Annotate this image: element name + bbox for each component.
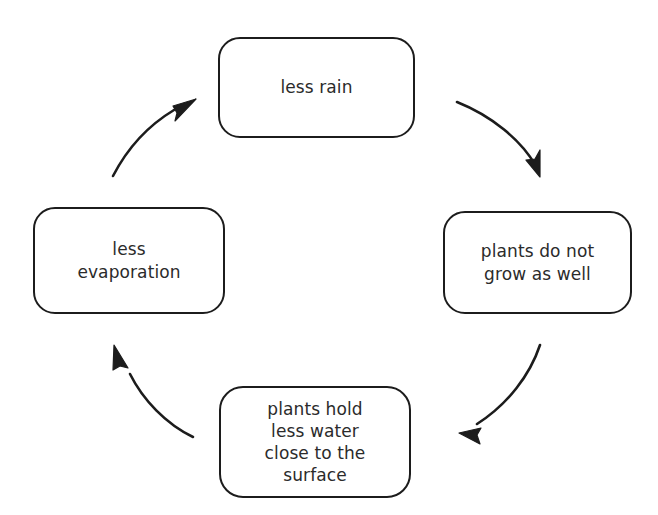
arrow-left-to-top-curve xyxy=(113,110,174,176)
arrow-top-to-right xyxy=(457,102,540,177)
node-less-rain: less rain xyxy=(218,37,415,138)
arrow-left-to-top xyxy=(113,99,196,176)
node-less-evaporation-label: less evaporation xyxy=(71,238,186,282)
arrow-right-to-bottom-head xyxy=(459,428,481,444)
cycle-diagram: less rain plants do not grow as well pla… xyxy=(0,0,658,515)
arrow-bottom-to-left-curve xyxy=(130,374,193,437)
node-plants-do-not-grow-as-well: plants do not grow as well xyxy=(443,211,632,314)
arrow-top-to-right-curve xyxy=(457,102,536,166)
node-less-evaporation: less evaporation xyxy=(33,207,225,314)
node-plants-hold-less-water-close-to-the-surface-label: plants hold less water close to the surf… xyxy=(259,398,372,486)
arrow-bottom-to-left xyxy=(113,345,193,437)
arrow-bottom-to-left-head xyxy=(113,345,128,370)
node-plants-do-not-grow-as-well-label: plants do not grow as well xyxy=(475,240,600,284)
node-plants-hold-less-water-close-to-the-surface: plants hold less water close to the surf… xyxy=(219,386,411,498)
arrow-right-to-bottom-curve xyxy=(477,345,540,424)
node-less-rain-label: less rain xyxy=(274,76,358,98)
arrow-left-to-top-head xyxy=(173,99,196,121)
arrow-right-to-bottom xyxy=(459,345,540,444)
